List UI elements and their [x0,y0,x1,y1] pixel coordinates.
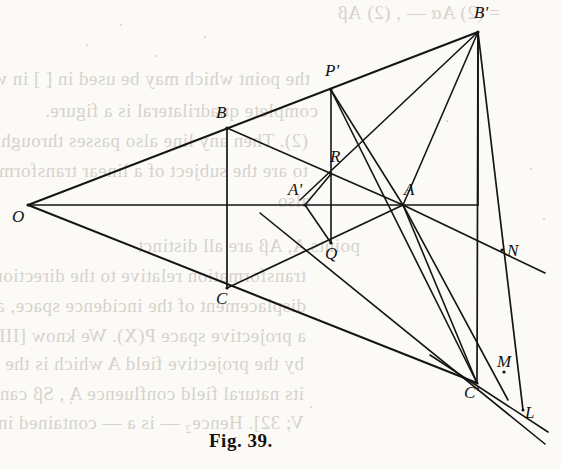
segment-C-to-A-side [227,205,403,288]
point-label-Bp: B' [474,4,488,21]
figure-caption: Fig. 39. [209,430,273,452]
point-label-Q: Q [325,245,337,262]
vertex-B [225,126,228,129]
point-label-A: A [404,181,414,198]
segment-Q-to-Cprime-ray [260,213,545,444]
vertex-R [329,172,332,175]
vertex-N [500,248,503,251]
figure-container: = (2) Aα — , (2) Aβthe point which may b… [0,0,561,469]
segment-O-to-Cprime-ray [28,205,477,383]
vertex-A [401,203,404,206]
segment-Bprime-to-A [403,32,478,205]
vertex-Bp [476,30,479,33]
point-label-B: B [216,104,226,121]
segment-Pprime-to-A [331,90,403,205]
point-label-R: R [330,148,340,165]
point-label-Cp: C' [464,384,479,401]
vertex-dot-group [26,30,524,411]
point-label-Pp: P' [325,62,339,79]
segment-Aprime-to-Q [305,205,331,243]
point-label-O: O [12,208,24,225]
vertex-Pp [329,88,332,91]
segment-Aprime-to-R [305,174,331,205]
vertex-Ap [303,203,306,206]
segment-Bprime-to-R-ext [300,32,478,200]
point-label-N: N [507,242,518,259]
vertex-O [26,203,29,206]
segment-Pprime-to-Cprime [331,90,477,383]
point-label-C: C [216,290,227,307]
point-label-Ap: A' [288,181,302,198]
segment-A-to-Cprime [403,205,477,383]
point-label-M: M [497,353,511,370]
segment-A-to-N-ray [403,205,545,273]
point-label-L: L [525,404,534,421]
